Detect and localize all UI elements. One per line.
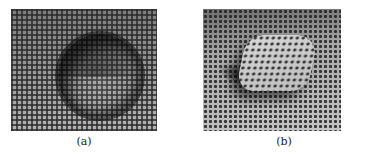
- raised-bump: [235, 35, 319, 91]
- figure-panel-a-image: [11, 9, 157, 131]
- panel-b-caption: (b): [264, 135, 304, 148]
- panel-a-caption: (a): [64, 135, 104, 148]
- circular-depression: [55, 31, 145, 121]
- figure-panel-b-image: [203, 9, 341, 131]
